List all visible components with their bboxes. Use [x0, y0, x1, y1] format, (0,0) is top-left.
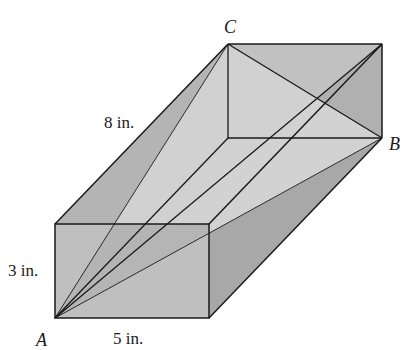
length-label: 5 in.: [113, 329, 143, 348]
depth-label: 8 in.: [104, 113, 134, 132]
vertex-label-a: A: [35, 330, 48, 350]
height-label: 3 in.: [8, 261, 38, 280]
vertex-label-c: C: [224, 17, 237, 37]
box-diagram: C B A 5 in. 3 in. 8 in.: [0, 0, 409, 350]
vertex-label-b: B: [389, 134, 400, 154]
